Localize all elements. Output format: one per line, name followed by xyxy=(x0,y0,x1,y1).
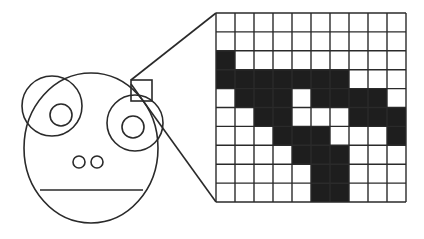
grid-cell-empty xyxy=(368,145,387,164)
grid-cell-empty xyxy=(368,51,387,70)
grid-cell-empty xyxy=(368,32,387,51)
grid-cell-empty xyxy=(235,164,254,183)
grid-cell-empty xyxy=(235,145,254,164)
grid-cell-empty xyxy=(216,32,235,51)
grid-cell-empty xyxy=(235,108,254,127)
grid-cell-empty xyxy=(349,51,368,70)
grid-cell-filled xyxy=(216,51,235,70)
right-pupil xyxy=(122,116,144,138)
grid-cell-empty xyxy=(330,126,349,145)
grid-cell-empty xyxy=(292,32,311,51)
grid-cell-empty xyxy=(254,164,273,183)
grid-cell-empty xyxy=(387,89,406,108)
grid-cell-empty xyxy=(235,183,254,202)
grid-cell-empty xyxy=(330,51,349,70)
grid-cell-empty xyxy=(216,126,235,145)
grid-cell-empty xyxy=(349,32,368,51)
grid-cell-empty xyxy=(273,51,292,70)
grid-cell-empty xyxy=(216,13,235,32)
grid-cell-filled xyxy=(235,89,254,108)
grid-cell-filled xyxy=(216,70,235,89)
grid-cell-empty xyxy=(273,145,292,164)
grid-cell-empty xyxy=(311,13,330,32)
grid-cell-filled xyxy=(311,70,330,89)
grid-cell-empty xyxy=(368,126,387,145)
left-pupil xyxy=(50,104,72,126)
right-nostril xyxy=(91,156,103,168)
grid-cell-empty xyxy=(254,51,273,70)
grid-cell-empty xyxy=(349,126,368,145)
grid-cell-empty xyxy=(235,126,254,145)
grid-cell-empty xyxy=(387,51,406,70)
grid-cell-filled xyxy=(387,108,406,127)
grid-cell-empty xyxy=(387,32,406,51)
grid-cell-empty xyxy=(216,108,235,127)
grid-cell-empty xyxy=(254,13,273,32)
grid-cell-empty xyxy=(235,13,254,32)
grid-cell-empty xyxy=(254,32,273,51)
grid-cell-filled xyxy=(368,89,387,108)
zoom-line-bottom xyxy=(131,84,216,202)
grid-cell-empty xyxy=(349,183,368,202)
grid-cell-empty xyxy=(216,145,235,164)
grid-cell-filled xyxy=(254,89,273,108)
grid-cell-empty xyxy=(387,183,406,202)
grid-cell-filled xyxy=(311,145,330,164)
grid-cell-empty xyxy=(216,164,235,183)
grid-cell-empty xyxy=(311,32,330,51)
grid-cell-empty xyxy=(292,13,311,32)
grid-cell-filled xyxy=(292,145,311,164)
grid-cell-empty xyxy=(349,164,368,183)
grid-cell-empty xyxy=(330,32,349,51)
grid-cell-filled xyxy=(349,89,368,108)
diagram-canvas xyxy=(0,0,424,239)
grid-cell-filled xyxy=(330,89,349,108)
grid-cell-filled xyxy=(330,164,349,183)
grid-cell-filled xyxy=(273,126,292,145)
grid-cell-empty xyxy=(292,108,311,127)
grid-cell-empty xyxy=(273,32,292,51)
grid-cell-filled xyxy=(368,108,387,127)
grid-cell-filled xyxy=(292,126,311,145)
grid-cell-empty xyxy=(254,126,273,145)
grid-cell-empty xyxy=(349,70,368,89)
grid-cell-filled xyxy=(330,70,349,89)
grid-cell-empty xyxy=(387,145,406,164)
grid-cell-filled xyxy=(273,70,292,89)
grid-cell-empty xyxy=(368,183,387,202)
grid-cell-filled xyxy=(254,108,273,127)
grid-cell-empty xyxy=(292,164,311,183)
grid-cell-filled xyxy=(311,164,330,183)
grid-cell-empty xyxy=(387,70,406,89)
left-nostril xyxy=(73,156,85,168)
grid-cell-empty xyxy=(273,164,292,183)
grid-cell-empty xyxy=(349,13,368,32)
grid-cell-filled xyxy=(292,70,311,89)
grid-cell-empty xyxy=(387,13,406,32)
grid-cell-filled xyxy=(273,89,292,108)
grid-cell-empty xyxy=(349,145,368,164)
grid-cell-filled xyxy=(235,70,254,89)
grid-cell-empty xyxy=(216,89,235,108)
grid-cell-empty xyxy=(292,51,311,70)
grid-cell-filled xyxy=(330,183,349,202)
grid-cell-empty xyxy=(235,32,254,51)
zoom-line-top xyxy=(131,13,216,80)
grid-cell-empty xyxy=(235,51,254,70)
grid-cell-empty xyxy=(273,13,292,32)
grid-cell-empty xyxy=(254,145,273,164)
grid-cell-filled xyxy=(330,145,349,164)
grid-cell-empty xyxy=(330,108,349,127)
grid-cell-empty xyxy=(273,183,292,202)
grid-cell-filled xyxy=(387,126,406,145)
grid-cell-filled xyxy=(273,108,292,127)
grid-cell-empty xyxy=(330,13,349,32)
face xyxy=(22,73,163,223)
grid-cell-empty xyxy=(216,183,235,202)
pixel-grid xyxy=(216,13,406,202)
grid-cell-empty xyxy=(292,183,311,202)
grid-cell-empty xyxy=(368,70,387,89)
grid-cell-empty xyxy=(387,164,406,183)
grid-cell-empty xyxy=(368,164,387,183)
grid-cell-empty xyxy=(311,108,330,127)
